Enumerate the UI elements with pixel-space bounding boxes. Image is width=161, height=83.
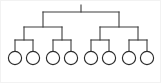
level2-connector-group bbox=[24, 27, 138, 40]
leaf-node-6[interactable] bbox=[102, 51, 115, 64]
tree-diagram-svg bbox=[1, 1, 161, 83]
leaf-node-group bbox=[8, 51, 153, 64]
leaf-node-2[interactable] bbox=[26, 51, 39, 64]
level3-connector-group bbox=[15, 40, 147, 51]
tree-diagram-container bbox=[0, 0, 161, 83]
root-connector-group bbox=[43, 5, 119, 27]
leaf-node-5[interactable] bbox=[84, 51, 97, 64]
leaf-node-4[interactable] bbox=[64, 51, 77, 64]
leaf-node-1[interactable] bbox=[8, 51, 21, 64]
leaf-node-3[interactable] bbox=[46, 51, 59, 64]
leaf-node-8[interactable] bbox=[140, 51, 153, 64]
leaf-node-7[interactable] bbox=[122, 51, 135, 64]
